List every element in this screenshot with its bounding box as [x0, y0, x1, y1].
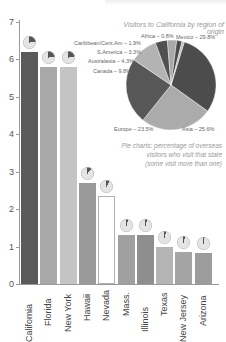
note-line-2: visitors who visit that state [108, 150, 222, 159]
pie-label-asia: Asia – 25.6% [182, 126, 214, 132]
pie-label-caribbean: Caribbean/Cent.Am – 1.9% [74, 40, 141, 46]
pie-label-samerica: S.America – 3.3% [97, 49, 141, 55]
pie-label-mexico: Mexico – 29.8% [176, 34, 215, 40]
note-line-1: Pie charts: percentage of overseas [108, 141, 222, 150]
note-line-3: (some visit more than one) [108, 159, 222, 168]
pie-label-australasia: Australasia – 4.3% [88, 58, 134, 64]
pie-label-canada: Canada – 9.8% [93, 68, 131, 74]
pie-label-africa: Africa – 0.8% [141, 33, 174, 39]
pie-label-europe: Europe – 23.5% [114, 126, 153, 132]
pie-note: Pie charts: percentage of overseas visit… [108, 141, 222, 168]
